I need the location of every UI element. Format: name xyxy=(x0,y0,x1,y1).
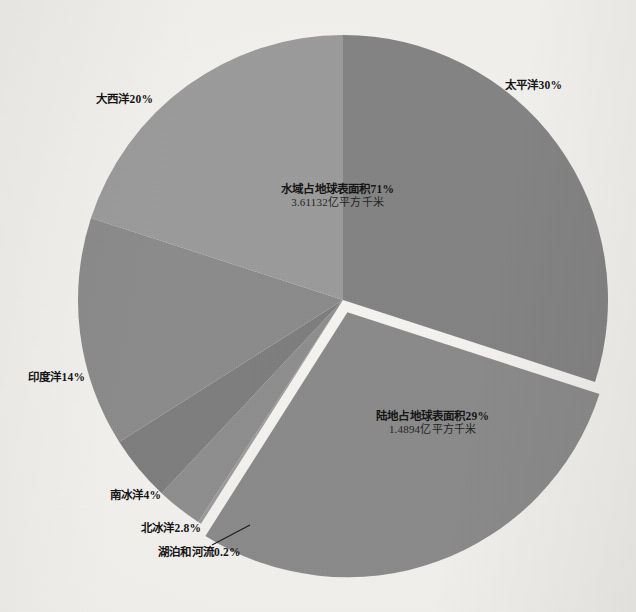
slice-label-lakes-rivers: 湖泊和河流0.2% xyxy=(158,545,241,559)
water-annotation: 水域占地球表面积71% 3.61132亿平方千米 xyxy=(281,182,394,210)
water-annotation-title: 水域占地球表面积71% xyxy=(281,182,394,196)
land-annotation-title: 陆地占地球表面积29% xyxy=(376,409,489,423)
land-annotation: 陆地占地球表面积29% 1.4894亿平方千米 xyxy=(376,409,489,437)
slice-label-indian: 印度洋14% xyxy=(28,370,85,384)
page-canvas: 太平洋30% 大西洋20% 印度洋14% 南冰洋4% 北冰洋2.8% 湖泊和河流… xyxy=(0,0,636,612)
slice-label-arctic: 北冰洋2.8% xyxy=(141,521,201,535)
water-annotation-value: 3.61132亿平方千米 xyxy=(281,196,394,210)
slice-label-atlantic: 大西洋20% xyxy=(96,92,153,106)
slice-label-pacific: 太平洋30% xyxy=(505,78,562,92)
land-annotation-value: 1.4894亿平方千米 xyxy=(376,423,489,437)
slice-label-southern: 南冰洋4% xyxy=(110,488,161,502)
